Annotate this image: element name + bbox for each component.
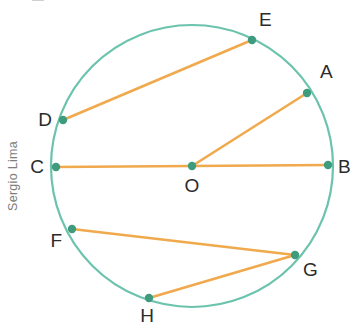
point-marker-e <box>248 36 256 44</box>
point-label-f: F <box>50 230 62 251</box>
segment-chord-DE <box>63 40 252 120</box>
point-marker-f <box>68 225 76 233</box>
point-label-b: B <box>338 156 351 177</box>
point-marker-g <box>291 251 299 259</box>
point-marker-h <box>145 294 153 302</box>
point-label-o: O <box>185 175 200 196</box>
diagram-canvas: Sergio Lima ABCDEFGHO <box>0 0 361 328</box>
point-marker-c <box>52 163 60 171</box>
segment-chord-HG <box>149 255 295 298</box>
point-marker-o <box>188 162 196 170</box>
segment-chord-FG <box>72 229 295 255</box>
watermark-group: Sergio Lima <box>6 141 20 211</box>
segment-radius-OA <box>192 93 307 166</box>
points-layer <box>52 36 332 302</box>
point-label-c: C <box>30 156 44 177</box>
watermark-sergio-lima: Sergio Lima <box>6 141 20 211</box>
point-label-g: G <box>303 259 318 280</box>
point-marker-b <box>324 161 332 169</box>
point-label-a: A <box>320 61 333 82</box>
point-label-e: E <box>259 9 272 30</box>
point-marker-a <box>303 89 311 97</box>
circle-geometry-figure: Sergio Lima ABCDEFGHO <box>0 0 361 328</box>
point-marker-d <box>59 116 67 124</box>
point-label-d: D <box>38 109 52 130</box>
point-label-h: H <box>140 305 154 326</box>
